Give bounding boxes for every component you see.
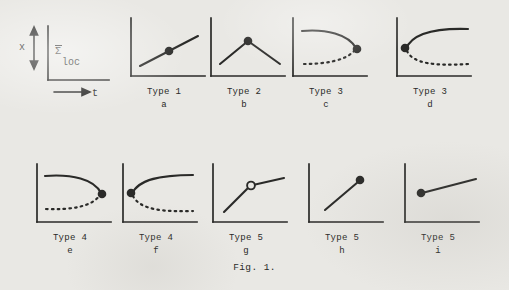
panel-c-type-label: Type 3	[280, 86, 372, 99]
panel-f-sub-label: f	[110, 245, 202, 257]
panel-e-marker-filled-dot	[98, 190, 107, 199]
panel-a-type-label: Type 1	[118, 86, 210, 99]
panel-e-dotted-branch	[46, 195, 100, 209]
panel-d-graph	[384, 14, 476, 86]
panel-b: Type 2 b	[198, 14, 290, 111]
panel-b-graph	[198, 14, 290, 86]
axis-legend: x t Σ loc	[8, 12, 116, 104]
axis-legend-sigma-label: Σ	[55, 46, 61, 57]
panel-f-type-label: Type 4	[110, 232, 202, 245]
panel-f-graph	[110, 160, 202, 232]
panel-d-plot	[384, 14, 476, 86]
panel-g-steep-segment	[224, 186, 250, 212]
panel-b-plot	[198, 14, 290, 86]
panel-b-type-label: Type 2	[198, 86, 290, 99]
panel-b-sub-label: b	[198, 99, 290, 111]
panel-a-marker-filled-dot	[165, 47, 174, 56]
panel-i-curve	[422, 179, 476, 193]
panel-e: Type 4 e	[24, 160, 116, 257]
figure-1: x t Σ loc Type 1 a	[0, 0, 509, 290]
panel-g-type-label: Type 5	[200, 232, 292, 245]
panel-g-shallow-segment	[253, 178, 284, 185]
panel-i-sub-label: i	[392, 245, 484, 257]
panel-i-plot	[392, 160, 484, 232]
axis-legend-x-label: t	[92, 88, 98, 99]
panel-a: Type 1 a	[118, 14, 210, 111]
panel-g-sub-label: g	[200, 245, 292, 257]
panel-c-dotted-branch	[304, 50, 355, 64]
sigma-glyph: Σ	[55, 46, 61, 57]
panel-b-marker-filled-dot	[244, 37, 253, 46]
figure-caption: Fig. 1.	[0, 262, 509, 273]
panel-e-sub-label: e	[24, 245, 116, 257]
panel-c-graph	[280, 14, 372, 86]
panel-d-marker-filled-dot	[401, 44, 410, 53]
panel-f-plot	[110, 160, 202, 232]
panel-i-type-label: Type 5	[392, 232, 484, 245]
panel-h-sub-label: h	[296, 245, 388, 257]
panel-d-sub-label: d	[384, 99, 476, 111]
panel-h-curve	[325, 182, 358, 210]
panel-c-sub-label: c	[280, 99, 372, 111]
panel-d-dotted-branch	[407, 51, 468, 65]
panel-g-graph	[200, 160, 292, 232]
panel-h-type-label: Type 5	[296, 232, 388, 245]
panel-g-marker-open-circle	[247, 182, 255, 190]
panel-h-plot	[296, 160, 388, 232]
panel-a-sub-label: a	[118, 99, 210, 111]
panel-a-graph	[118, 14, 210, 86]
panel-e-graph	[24, 160, 116, 232]
panel-g-plot	[200, 160, 292, 232]
panel-f-solid-branch	[132, 175, 193, 194]
axis-legend-loc-label: loc	[62, 57, 80, 68]
panel-h: Type 5 h	[296, 160, 388, 257]
panel-h-marker-filled-dot	[356, 176, 365, 185]
panel-c-solid-branch	[302, 31, 356, 48]
panel-i-graph	[392, 160, 484, 232]
panel-i: Type 5 i	[392, 160, 484, 257]
panel-h-graph	[296, 160, 388, 232]
panel-a-plot	[118, 14, 210, 86]
panel-g: Type 5 g	[200, 160, 292, 257]
panel-f-dotted-branch	[133, 196, 193, 211]
panel-c: Type 3 c	[280, 14, 372, 111]
panel-f: Type 4 f	[110, 160, 202, 257]
axis-legend-y-label: x	[19, 42, 25, 53]
panel-e-solid-branch	[45, 176, 101, 193]
panel-e-plot	[24, 160, 116, 232]
panel-e-type-label: Type 4	[24, 232, 116, 245]
panel-c-plot	[280, 14, 372, 86]
panel-d: Type 3 d	[384, 14, 476, 111]
panel-i-marker-filled-dot	[417, 189, 426, 198]
panel-d-type-label: Type 3	[384, 86, 476, 99]
panel-d-solid-branch	[406, 29, 468, 49]
panel-f-marker-filled-dot	[127, 189, 136, 198]
panel-c-marker-filled-dot	[353, 45, 362, 54]
